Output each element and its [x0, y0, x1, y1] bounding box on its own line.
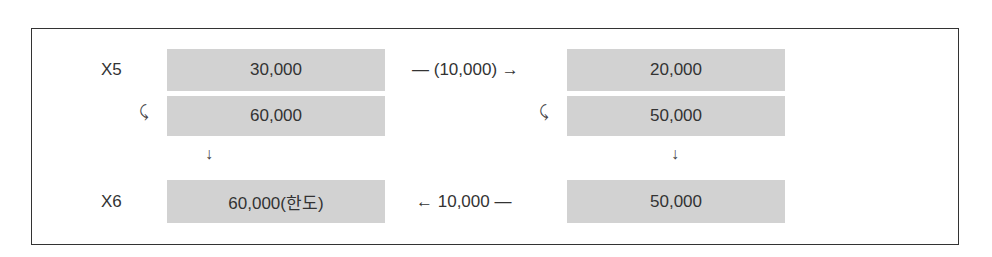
right-second-box: 50,000: [567, 96, 785, 136]
right-top-box: 20,000: [567, 49, 785, 91]
curl-arrow-icon: ⤹: [139, 103, 149, 121]
left-bottom-box: 60,000(한도): [167, 180, 385, 223]
row-label-x5: X5: [101, 60, 122, 80]
right-bottom-box: 50,000: [567, 180, 785, 223]
down-arrow-icon: ↓: [671, 145, 679, 163]
left-top-box: 30,000: [167, 49, 385, 91]
flow-top-right: — (10,000) →: [412, 60, 519, 80]
curl-arrow-icon: ⤹: [539, 103, 549, 121]
row-label-x6: X6: [101, 192, 122, 212]
left-second-box: 60,000: [167, 96, 385, 136]
flow-bottom-left: ← 10,000 —: [416, 192, 511, 212]
down-arrow-icon: ↓: [205, 145, 213, 163]
